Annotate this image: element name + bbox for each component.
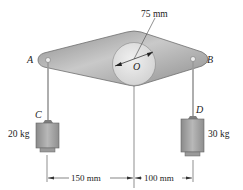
pin-b bbox=[191, 57, 196, 62]
label-a: A bbox=[26, 54, 34, 65]
weight-c bbox=[36, 120, 59, 152]
label-c: C bbox=[35, 109, 42, 120]
pin-a bbox=[46, 58, 51, 63]
dim-right-label: 100 mm bbox=[144, 173, 174, 183]
radius-label: 75 mm bbox=[141, 9, 168, 19]
weight-d bbox=[181, 116, 204, 156]
dim-left-label: 150 mm bbox=[71, 173, 101, 183]
pulley-plate-diagram: 75 mm A B O C D 20 kg 30 kg 150 mm 100 m… bbox=[0, 0, 243, 190]
mass-c-label: 20 kg bbox=[8, 129, 30, 139]
label-b: B bbox=[207, 54, 213, 65]
label-d: D bbox=[195, 104, 204, 115]
mass-d-label: 30 kg bbox=[208, 129, 230, 139]
plate bbox=[38, 31, 208, 86]
label-o: O bbox=[133, 61, 140, 72]
